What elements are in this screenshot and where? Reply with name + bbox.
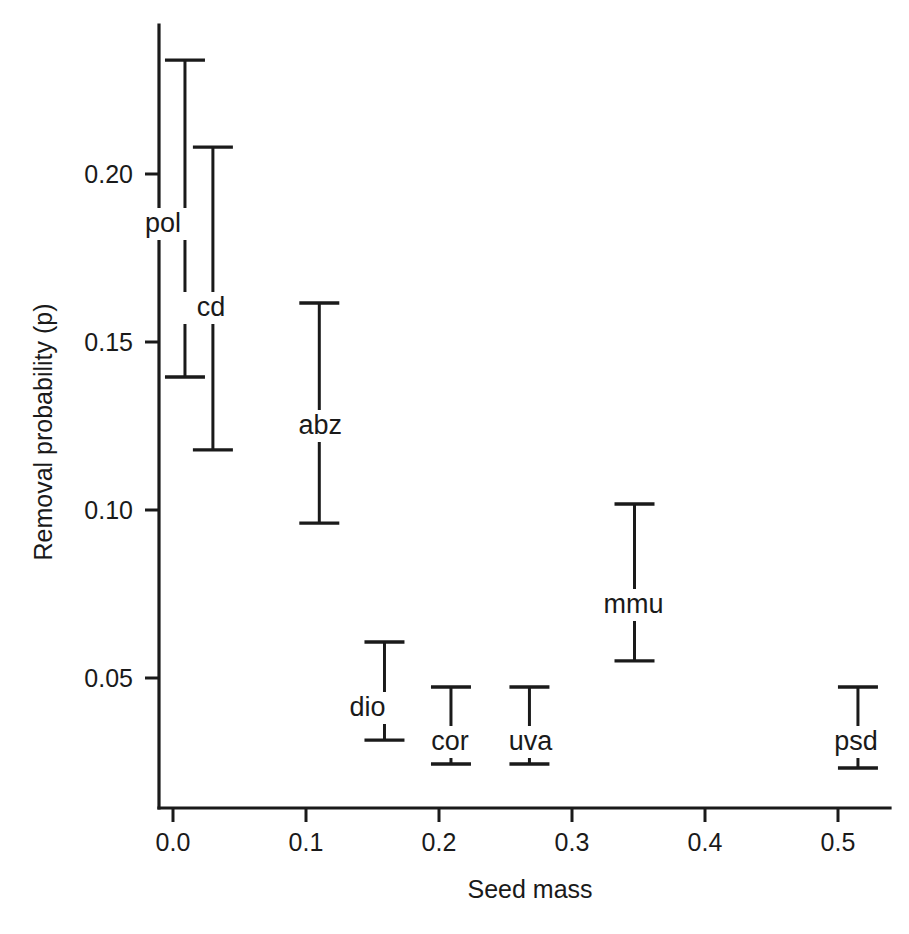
x-tick-label: 0.5 [821,828,856,856]
chart-figure: 0.050.100.150.20 0.00.10.20.30.40.5 polc… [0,0,909,934]
x-tick-label: 0.1 [289,828,324,856]
error-bar [615,504,655,661]
y-tick-label: 0.20 [84,160,133,188]
series-point-label: pol [145,208,181,238]
series-point-label: uva [509,726,554,756]
series-point-label: dio [349,692,385,722]
series-point-label: abz [299,410,343,440]
axes-group [159,25,890,808]
x-axis-ticks: 0.00.10.20.30.40.5 [156,808,856,856]
x-axis-title: Seed mass [467,875,592,903]
series-point-label: cd [197,292,226,322]
error-bars-group [165,60,878,768]
x-tick-label: 0.2 [422,828,457,856]
point-labels-group: polcdabzdiocoruvammupsd [133,208,886,758]
y-tick-label: 0.10 [84,496,133,524]
series-point-label: cor [431,726,469,756]
series-point-label: psd [834,726,878,756]
x-tick-label: 0.3 [555,828,590,856]
y-axis-title: Removal probability (p) [29,303,57,560]
y-tick-label: 0.15 [84,328,133,356]
plot-area: 0.050.100.150.20 0.00.10.20.30.40.5 polc… [0,0,909,934]
y-tick-label: 0.05 [84,664,133,692]
x-tick-label: 0.0 [156,828,191,856]
series-point-label: mmu [604,589,664,619]
x-tick-label: 0.4 [688,828,723,856]
